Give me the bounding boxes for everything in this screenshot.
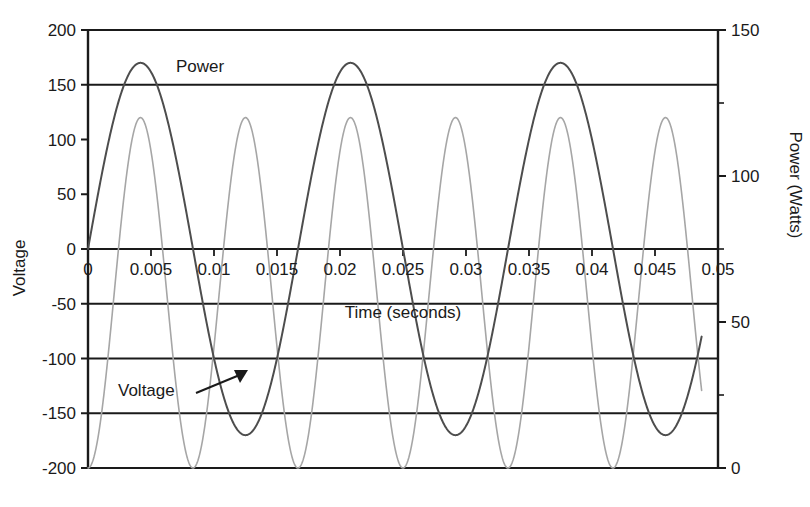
y-axis-right-tick-label: 50: [731, 313, 750, 332]
x-axis-title: Time (seconds): [345, 303, 462, 322]
y-axis-left-title: Voltage: [10, 240, 29, 297]
x-axis-tick-label: 0.02: [323, 260, 356, 279]
y-axis-left-tick-label: -100: [42, 350, 76, 369]
series-annotation-voltage: Voltage: [118, 381, 175, 400]
y-axis-right-tick-label: 150: [731, 21, 759, 40]
x-axis-tick-label: 0.015: [256, 260, 299, 279]
y-axis-left-tick-label: 200: [48, 21, 76, 40]
series-annotation-power: Power: [176, 57, 225, 76]
x-axis-tick-label: 0.025: [382, 260, 425, 279]
x-axis-tick-label: 0.035: [508, 260, 551, 279]
chart-svg: 200150100500-50-100-150-200 150100500 00…: [0, 0, 810, 507]
y-axis-left-tick-label: -150: [42, 404, 76, 423]
y-axis-left-tick-label: -50: [51, 295, 76, 314]
y-axis-left-tick-label: 150: [48, 76, 76, 95]
y-axis-left-tick-label: 100: [48, 131, 76, 150]
y-axis-right-tick-label: 100: [731, 167, 759, 186]
y-axis-right-title: Power (Watts): [786, 131, 805, 238]
x-axis-tick-label: 0: [83, 260, 92, 279]
x-axis-tick-label: 0.005: [130, 260, 173, 279]
chart-figure: 200150100500-50-100-150-200 150100500 00…: [0, 0, 810, 507]
y-axis-left-tick-label: 0: [67, 240, 76, 259]
x-axis-tick-label: 0.05: [701, 260, 734, 279]
y-axis-right-tick-label: 0: [731, 459, 740, 478]
y-axis-left-tick-label: 50: [57, 185, 76, 204]
x-axis-tick-label: 0.03: [449, 260, 482, 279]
y-axis-left-tick-label: -200: [42, 459, 76, 478]
x-axis-tick-label: 0.01: [197, 260, 230, 279]
x-axis-tick-label: 0.04: [575, 260, 608, 279]
x-axis-tick-label: 0.045: [634, 260, 677, 279]
